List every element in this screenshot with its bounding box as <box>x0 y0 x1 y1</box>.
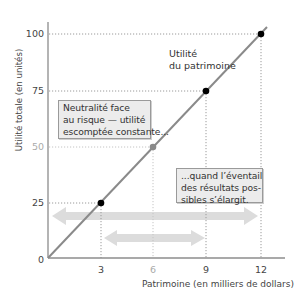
svg-text:25: 25 <box>32 197 44 208</box>
curve-label-line: Utilité <box>169 48 236 60</box>
utility-chart: 100 75 50 25 0 3 6 9 12 Patrimoine (en m… <box>0 0 308 299</box>
curve-label-line: du patrimoine <box>169 60 236 72</box>
y-axis-title: Utilité totale (en unités) <box>14 49 24 151</box>
svg-text:12: 12 <box>255 264 267 275</box>
curve-label: Utilité du patrimoine <box>169 48 236 72</box>
y-tick-labels: 100 75 50 25 0 <box>26 28 44 265</box>
note-risk-neutrality: Neutralité face au risque — utilité esco… <box>58 100 151 139</box>
axes <box>48 22 285 258</box>
note-line: au risque — utilité <box>63 114 146 126</box>
note-line: Neutralité face <box>63 102 146 114</box>
svg-text:9: 9 <box>203 264 209 275</box>
note-line: sibles s’élargit. <box>181 194 258 206</box>
svg-text:50: 50 <box>32 141 44 152</box>
svg-text:75: 75 <box>32 85 44 96</box>
svg-text:6: 6 <box>150 264 156 275</box>
range-arrow-narrow <box>104 230 205 246</box>
note-line: escomptée constante... <box>63 126 146 138</box>
point-9-75 <box>203 88 210 95</box>
point-6-50 <box>150 144 157 151</box>
note-range-widens: ...quand l’éventail des résultats pos- s… <box>176 168 263 203</box>
point-12-100 <box>258 31 265 38</box>
svg-text:0: 0 <box>38 254 44 265</box>
note-line: des résultats pos- <box>181 182 258 194</box>
svg-text:100: 100 <box>26 28 44 39</box>
svg-text:3: 3 <box>98 264 104 275</box>
x-tick-labels: 3 6 9 12 <box>98 264 267 275</box>
x-axis-title: Patrimoine (en milliers de dollars) <box>142 279 294 289</box>
note-line: ...quand l’éventail <box>181 170 258 182</box>
point-3-25 <box>98 200 105 207</box>
